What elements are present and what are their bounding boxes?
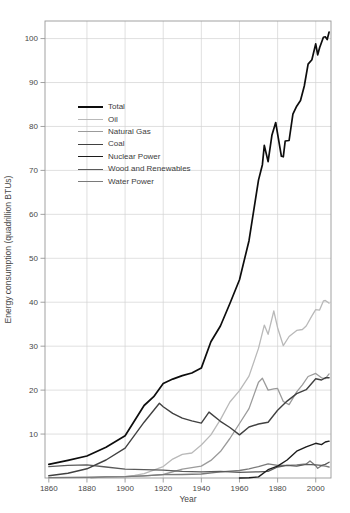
x-tick-label: 1980 — [269, 484, 287, 493]
x-tick-label: 1920 — [154, 484, 172, 493]
x-axis-label: Year — [179, 494, 196, 504]
energy-consumption-figure: 1020304050607080901001860188019001920194… — [0, 0, 350, 513]
y-tick-label: 40 — [29, 298, 38, 307]
legend-item-nuclear-power: Nuclear Power — [78, 151, 191, 163]
series-line-water-power — [49, 461, 329, 478]
legend-item-total: Total — [78, 101, 191, 113]
legend-swatch-water-power — [78, 181, 103, 182]
legend-swatch-wood-and-renewables — [78, 169, 103, 170]
energy-consumption-chart: 1020304050607080901001860188019001920194… — [0, 0, 350, 513]
legend-label-oil: Oil — [108, 116, 118, 124]
y-tick-label: 60 — [29, 210, 38, 219]
legend-item-natural-gas: Natural Gas — [78, 126, 191, 138]
legend-label-water-power: Water Power — [108, 178, 154, 186]
legend-label-nuclear-power: Nuclear Power — [108, 153, 160, 161]
y-tick-label: 50 — [29, 254, 38, 263]
grid-lines — [45, 21, 331, 478]
x-tick-label: 1940 — [192, 484, 210, 493]
y-tick-label: 80 — [29, 122, 38, 131]
plot-border — [45, 21, 331, 478]
x-tick-label: 1880 — [78, 484, 96, 493]
y-tick-label: 70 — [29, 166, 38, 175]
legend-label-total: Total — [108, 103, 125, 111]
y-tick-label: 100 — [25, 34, 39, 43]
legend-label-coal: Coal — [108, 140, 124, 148]
legend-item-oil: Oil — [78, 113, 191, 125]
legend-item-wood-and-renewables: Wood and Renewables — [78, 163, 191, 175]
x-tick-label: 2000 — [307, 484, 325, 493]
data-series — [49, 32, 329, 478]
legend-label-natural-gas: Natural Gas — [108, 128, 151, 136]
legend-swatch-coal — [78, 144, 103, 145]
legend-item-water-power: Water Power — [78, 175, 191, 187]
series-line-oil — [49, 301, 329, 478]
legend-swatch-oil — [78, 119, 103, 120]
y-tick-label: 20 — [29, 386, 38, 395]
x-tick-label: 1960 — [231, 484, 249, 493]
legend-swatch-natural-gas — [78, 131, 103, 132]
chart-legend: TotalOilNatural GasCoalNuclear PowerWood… — [78, 101, 191, 188]
y-axis-label: Energy consumption (quadrillion BTUs) — [3, 175, 13, 323]
x-tick-label: 1860 — [40, 484, 58, 493]
series-line-coal — [49, 378, 329, 476]
y-tick-label: 10 — [29, 430, 38, 439]
series-line-total — [49, 32, 329, 464]
y-tick-label: 90 — [29, 78, 38, 87]
legend-swatch-nuclear-power — [78, 156, 103, 157]
x-tick-label: 1900 — [116, 484, 134, 493]
legend-swatch-total — [78, 106, 103, 108]
legend-item-coal: Coal — [78, 138, 191, 150]
axes — [41, 21, 332, 483]
y-tick-label: 30 — [29, 342, 38, 351]
series-line-natural-gas — [91, 373, 329, 477]
legend-label-wood-and-renewables: Wood and Renewables — [108, 165, 191, 173]
